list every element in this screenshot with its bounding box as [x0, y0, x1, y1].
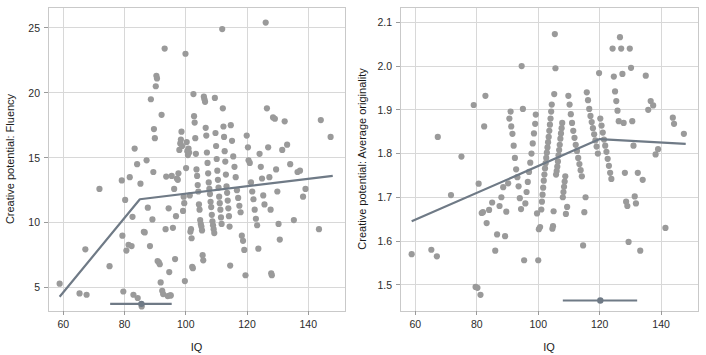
data-point [282, 118, 288, 124]
data-point [119, 177, 125, 183]
data-point [584, 89, 590, 95]
data-point [220, 105, 226, 111]
data-point [153, 83, 159, 89]
data-point [618, 45, 624, 51]
left-xtick-label-4: 140 [299, 318, 317, 330]
data-point [230, 153, 236, 159]
data-point [252, 207, 258, 213]
data-point [211, 230, 217, 236]
data-point [275, 221, 281, 227]
data-point [228, 122, 234, 128]
data-point [226, 223, 232, 229]
data-point [569, 120, 575, 126]
left-ytick-label-0: 5 [34, 281, 40, 293]
data-point [129, 214, 135, 220]
data-point [215, 177, 221, 183]
data-point [183, 165, 189, 171]
data-point [556, 147, 562, 153]
two-panel-scatter-chart: 6080100120140510152025IQCreative potenti… [0, 0, 706, 355]
data-point [127, 174, 133, 180]
data-point [448, 192, 454, 198]
right-ytick-label-5: 2.0 [377, 60, 392, 72]
data-point [240, 238, 246, 244]
data-point [509, 131, 515, 137]
data-point [202, 99, 208, 105]
data-point [508, 108, 514, 114]
data-point [496, 203, 502, 209]
data-point [209, 212, 215, 218]
data-point [625, 239, 631, 245]
data-point [261, 201, 267, 207]
data-point [560, 189, 566, 195]
data-point [233, 174, 239, 180]
data-point [617, 34, 623, 40]
data-point [635, 170, 641, 176]
data-point [458, 153, 464, 159]
data-point [552, 31, 558, 37]
data-point [145, 205, 151, 211]
data-point [515, 183, 521, 189]
data-point [582, 194, 588, 200]
data-point [260, 192, 266, 198]
data-point [558, 130, 564, 136]
data-point [544, 144, 550, 150]
data-point [565, 93, 571, 99]
right-breakpoint-estimate-marker [597, 297, 603, 303]
data-point [250, 196, 256, 202]
data-point [119, 233, 125, 239]
data-point [520, 106, 526, 112]
data-point [581, 209, 587, 215]
data-point [609, 45, 615, 51]
data-point [208, 204, 214, 210]
data-point [194, 173, 200, 179]
data-point [222, 159, 228, 165]
data-point [302, 186, 308, 192]
data-point [551, 91, 557, 97]
data-point [245, 144, 251, 150]
data-point [83, 292, 89, 298]
data-point [226, 213, 232, 219]
data-point [274, 188, 280, 194]
data-point [550, 223, 556, 229]
data-point [227, 262, 233, 268]
data-point [253, 216, 259, 222]
data-point [573, 142, 579, 148]
data-point [541, 178, 547, 184]
data-point [517, 195, 523, 201]
data-point [203, 125, 209, 131]
data-point [316, 226, 322, 232]
data-point [629, 118, 635, 124]
data-point [214, 156, 220, 162]
data-point [272, 116, 278, 122]
data-point [538, 206, 544, 212]
data-point [547, 122, 553, 128]
data-point [612, 88, 618, 94]
data-point [128, 243, 134, 249]
data-point [182, 51, 188, 57]
data-point [237, 209, 243, 215]
data-point [244, 133, 250, 139]
data-point [269, 272, 275, 278]
data-point [178, 136, 184, 142]
data-point [173, 213, 179, 219]
data-point [540, 185, 546, 191]
data-point [254, 222, 260, 228]
data-point [596, 70, 602, 76]
data-point [492, 248, 498, 254]
data-point [265, 144, 271, 150]
data-point [571, 135, 577, 141]
left-xtick-label-3: 120 [238, 318, 256, 330]
left-breakpoint-estimate-marker [138, 301, 144, 307]
data-point [521, 257, 527, 263]
data-point [559, 125, 565, 131]
data-point [557, 136, 563, 142]
data-point [220, 123, 226, 129]
data-point [212, 130, 218, 136]
data-point [247, 160, 253, 166]
data-point [549, 101, 555, 107]
data-point [645, 107, 651, 113]
data-point [600, 129, 606, 135]
data-point [541, 171, 547, 177]
data-point [328, 134, 334, 140]
data-point [628, 65, 634, 71]
